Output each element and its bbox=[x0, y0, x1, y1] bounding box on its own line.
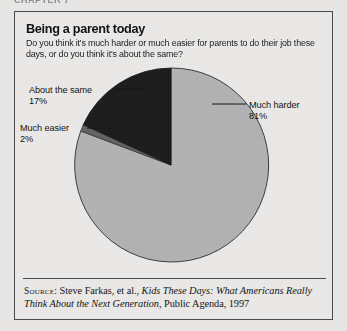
source-author: Steve Farkas, et al., bbox=[59, 285, 139, 296]
pie-label-much-harder-name: Much harder bbox=[249, 100, 299, 110]
source-label: Source: bbox=[24, 286, 57, 296]
pie-chart: About the same 17% Much easier 2% Much h… bbox=[15, 12, 334, 321]
pie-label-much-harder: Much harder 81% bbox=[249, 100, 299, 122]
source-publisher: Public Agenda, 1997 bbox=[164, 298, 249, 309]
pie-label-much-harder-value: 81% bbox=[249, 111, 299, 122]
running-head: CHAPTER 7 bbox=[14, 0, 134, 7]
pie-label-much-easier-value: 2% bbox=[20, 134, 69, 145]
source-divider bbox=[23, 278, 326, 279]
pie-label-about-the-same-value: 17% bbox=[29, 96, 92, 107]
source-comma: , bbox=[159, 298, 162, 309]
pie-label-much-easier-name: Much easier bbox=[20, 123, 69, 133]
running-head-text: CHAPTER 7 bbox=[14, 0, 134, 5]
pie-chart-svg bbox=[15, 12, 334, 321]
pie-label-much-easier: Much easier 2% bbox=[20, 123, 69, 145]
figure-frame: Being a parent today Do you think it's m… bbox=[14, 11, 333, 320]
source-note: Source: Steve Farkas, et al., Kids These… bbox=[24, 285, 324, 310]
pie-label-about-the-same: About the same 17% bbox=[29, 85, 92, 107]
pie-label-about-the-same-name: About the same bbox=[29, 85, 92, 95]
figure-page: CHAPTER 7 Being a parent today Do you th… bbox=[0, 0, 347, 331]
